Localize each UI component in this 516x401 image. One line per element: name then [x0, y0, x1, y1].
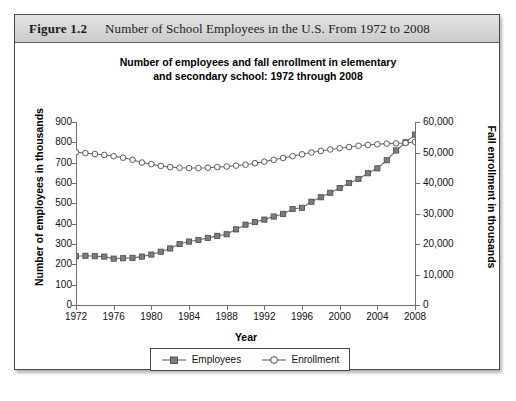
- data-point-enrollment: [233, 163, 239, 169]
- figure-caption: Number of School Employees in the U.S. F…: [105, 21, 430, 37]
- chart-legend: Employees Enrollment: [150, 348, 350, 371]
- data-point-employees: [384, 158, 389, 163]
- y-tick-right: [416, 122, 420, 123]
- y-tick-right: [416, 305, 420, 306]
- data-point-enrollment: [224, 164, 230, 170]
- data-point-employees: [102, 254, 107, 259]
- data-point-enrollment: [196, 165, 202, 171]
- x-tick-label: 1992: [244, 311, 284, 322]
- data-point-enrollment: [214, 164, 220, 170]
- data-point-enrollment: [403, 140, 409, 146]
- data-point-employees: [168, 246, 173, 251]
- series-line-employees: [76, 135, 415, 259]
- x-tick: [114, 306, 115, 310]
- y-tick-label-right: 10,000: [423, 270, 471, 280]
- y-tick-right: [416, 214, 420, 215]
- data-point-enrollment: [346, 144, 352, 150]
- legend-item-employees[interactable]: Employees: [161, 354, 241, 365]
- data-point-enrollment: [384, 141, 390, 147]
- data-point-enrollment: [76, 149, 79, 155]
- y-tick-label-right: 0: [423, 300, 471, 310]
- x-tick-label: 2000: [320, 311, 360, 322]
- data-point-employees: [92, 254, 97, 259]
- data-point-employees: [309, 199, 314, 204]
- legend-label-enrollment: Enrollment: [292, 354, 340, 365]
- x-tick: [415, 306, 416, 310]
- data-point-employees: [328, 190, 333, 195]
- data-point-employees: [412, 132, 415, 137]
- x-tick-label: 2004: [357, 311, 397, 322]
- data-point-enrollment: [130, 157, 136, 163]
- x-tick-label: 1996: [282, 311, 322, 322]
- x-axis-line: [76, 305, 416, 306]
- y-axis-left-title: Number of employees in thousands: [33, 102, 45, 292]
- data-point-employees: [130, 255, 135, 260]
- legend-item-enrollment[interactable]: Enrollment: [261, 354, 340, 365]
- data-point-employees: [76, 254, 79, 259]
- y-tick-right: [416, 183, 420, 184]
- data-point-employees: [215, 233, 220, 238]
- data-point-employees: [243, 222, 248, 227]
- data-point-enrollment: [120, 155, 126, 161]
- x-tick-label: 1972: [56, 311, 96, 322]
- legend-marker-open-circle-icon: [261, 355, 287, 365]
- data-point-employees: [365, 171, 370, 176]
- x-tick: [340, 306, 341, 310]
- data-point-employees: [120, 256, 125, 261]
- data-point-enrollment: [271, 157, 277, 163]
- x-tick: [302, 306, 303, 310]
- data-point-enrollment: [92, 151, 98, 157]
- data-point-enrollment: [290, 153, 296, 159]
- data-point-enrollment: [375, 141, 381, 147]
- data-point-employees: [139, 254, 144, 259]
- data-point-employees: [158, 249, 163, 254]
- data-point-employees: [196, 237, 201, 242]
- plot-region: [76, 122, 415, 305]
- data-point-enrollment: [393, 141, 399, 147]
- data-point-employees: [252, 219, 257, 224]
- data-point-employees: [337, 185, 342, 190]
- x-axis-title: Year: [76, 331, 416, 343]
- data-point-enrollment: [280, 155, 286, 161]
- data-point-employees: [177, 241, 182, 246]
- x-tick: [76, 306, 77, 310]
- y-tick-label-right: 40,000: [423, 178, 471, 188]
- y-tick-label-right: 20,000: [423, 239, 471, 249]
- x-tick-label: 1988: [207, 311, 247, 322]
- data-point-enrollment: [243, 162, 249, 168]
- x-tick-label: 1980: [131, 311, 171, 322]
- data-point-enrollment: [149, 161, 155, 167]
- data-point-employees: [233, 227, 238, 232]
- x-tick: [227, 306, 228, 310]
- data-point-enrollment: [365, 142, 371, 148]
- data-point-employees: [271, 214, 276, 219]
- legend-marker-filled-square-icon: [161, 355, 187, 365]
- y-tick-right: [416, 275, 420, 276]
- data-point-employees: [290, 206, 295, 211]
- figure-header: Figure 1.2 Number of School Employees in…: [15, 15, 499, 43]
- data-point-enrollment: [205, 165, 211, 171]
- y-tick-label-left: 0: [38, 300, 72, 310]
- x-tick: [151, 306, 152, 310]
- data-point-enrollment: [177, 165, 183, 171]
- y-tick-label-right: 50,000: [423, 148, 471, 158]
- series-svg: [76, 122, 415, 305]
- x-tick-label: 1976: [94, 311, 134, 322]
- data-point-employees: [224, 232, 229, 237]
- data-point-enrollment: [262, 159, 268, 165]
- data-point-employees: [375, 166, 380, 171]
- data-point-employees: [281, 211, 286, 216]
- data-point-enrollment: [299, 152, 305, 158]
- x-tick-label: 1984: [169, 311, 209, 322]
- data-point-enrollment: [252, 160, 258, 166]
- data-point-enrollment: [139, 160, 145, 166]
- x-tick: [264, 306, 265, 310]
- data-point-enrollment: [412, 139, 415, 145]
- x-tick-label: 2008: [395, 311, 435, 322]
- legend-label-employees: Employees: [192, 354, 241, 365]
- data-point-employees: [356, 176, 361, 181]
- figure-label: Figure 1.2: [29, 21, 87, 37]
- data-point-employees: [318, 195, 323, 200]
- data-point-enrollment: [327, 147, 333, 153]
- y-tick-label-right: 30,000: [423, 209, 471, 219]
